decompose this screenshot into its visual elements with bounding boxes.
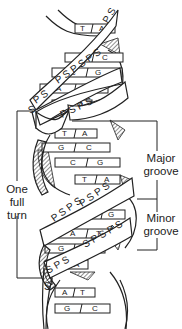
svg-text:T: T (62, 129, 67, 138)
svg-text:G: G (58, 244, 64, 253)
one-full-turn-label: One full turn (0, 183, 34, 222)
minor-groove-line-2: groove (140, 225, 182, 238)
one-full-turn-line-2: full (0, 196, 34, 209)
one-full-turn-line-1: One (0, 183, 34, 196)
major-groove-line-2: groove (140, 165, 182, 178)
svg-text:T: T (80, 288, 85, 297)
svg-text:G: G (108, 210, 114, 219)
one-full-turn-line-3: turn (0, 209, 34, 222)
svg-text:T: T (80, 24, 85, 33)
svg-text:G: G (95, 68, 101, 77)
minor-groove-label: Minor groove (140, 212, 182, 238)
svg-text:A: A (62, 288, 68, 297)
svg-text:C: C (70, 158, 76, 167)
major-groove-line-1: Major (140, 152, 182, 165)
svg-text:C: C (86, 143, 92, 152)
svg-text:G: G (64, 304, 70, 313)
major-groove-label: Major groove (140, 152, 182, 178)
svg-text:C: C (92, 304, 98, 313)
svg-text:A: A (82, 129, 88, 138)
svg-text:T: T (82, 175, 87, 184)
dna-diagram: TA GC CG AT TA TA GC CG TA CG AT GC TA A… (0, 0, 182, 329)
svg-text:C: C (102, 53, 108, 62)
svg-text:G: G (58, 143, 64, 152)
minor-groove-line-1: Minor (140, 212, 182, 225)
svg-text:G: G (97, 158, 103, 167)
